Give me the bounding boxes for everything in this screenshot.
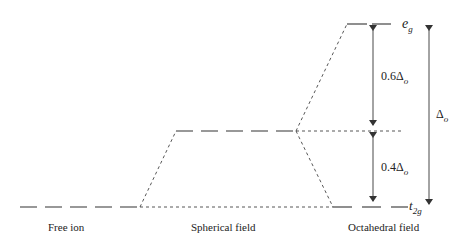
column-label-octahedral-field: Octahedral field — [348, 221, 420, 233]
lower-gap-label: 0.4Δo — [381, 160, 409, 177]
eg-label: eg — [402, 16, 413, 34]
connector-spherical-to-eg — [296, 24, 347, 131]
connector-free-to-spherical — [140, 131, 176, 207]
column-label-free-ion: Free ion — [48, 221, 85, 233]
splitting-diagram: eg t2g 0.6Δo 0.4Δo Δo Free ion Spherical… — [0, 0, 463, 242]
t2g-label: t2g — [409, 198, 422, 216]
upper-gap-label: 0.6Δo — [381, 69, 409, 86]
total-gap-label: Δo — [436, 107, 449, 124]
column-label-spherical-field: Spherical field — [191, 221, 256, 233]
connector-spherical-to-t2g — [296, 131, 333, 207]
